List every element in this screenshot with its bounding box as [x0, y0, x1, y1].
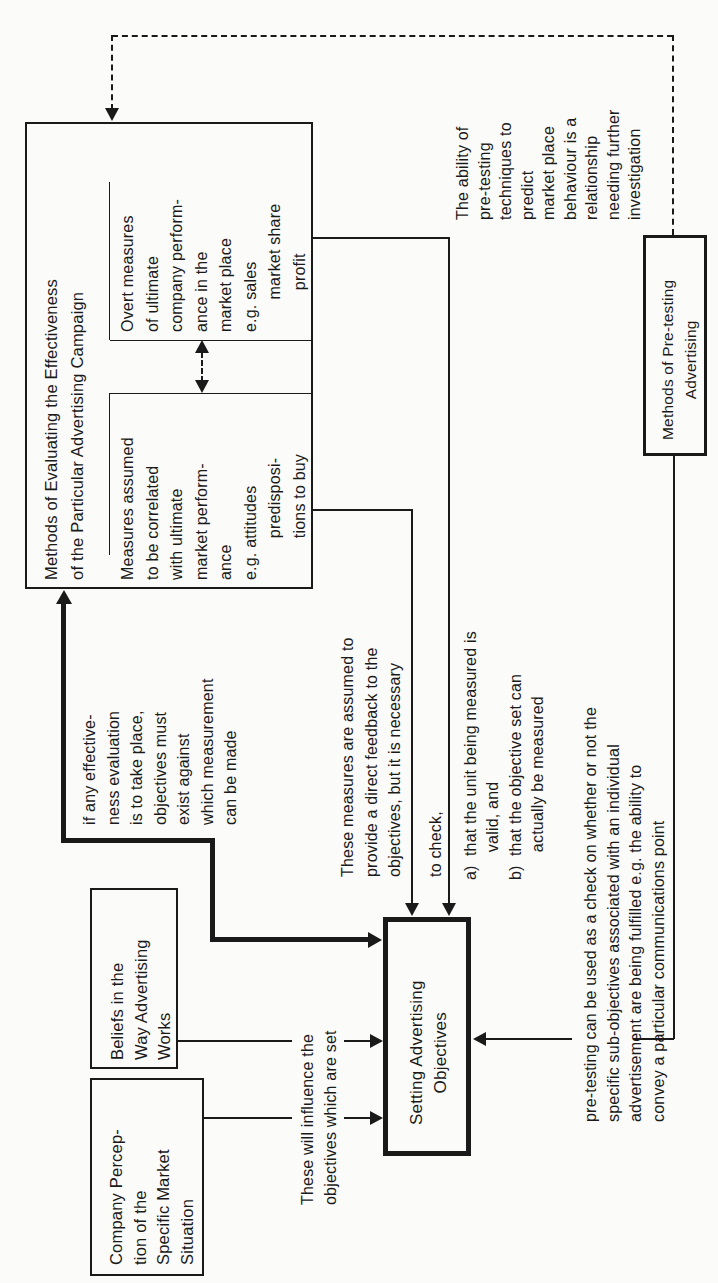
pretesting-connector-vertical: [673, 456, 675, 1039]
company-perception-connector-tail: [344, 1117, 370, 1119]
arrow-right-icon: [370, 1111, 383, 1125]
check-a-annotation: a) that the unit being measured is valid…: [460, 631, 504, 880]
assumed-measures-feedback-vertical: [411, 509, 413, 904]
arrow-down-icon: [195, 380, 209, 393]
pretesting-dashed-top: [112, 35, 673, 37]
beliefs-connector: [178, 1040, 292, 1042]
company-perception-label: Company Percep- tion of the Specific Mar…: [105, 1129, 199, 1265]
arrow-down-icon: [105, 108, 119, 121]
thick-link-step: [61, 838, 215, 843]
setting-objectives-label: Setting Advertising Objectives: [405, 980, 453, 1125]
correlation-dashed-link: [201, 352, 203, 382]
assumed-measures-text: Measures assumed to be correlated with u…: [116, 437, 312, 580]
pretesting-ability-annotation: The ability of pre-testing techniques to…: [452, 109, 646, 220]
influence-annotation: These will influence the objectives whic…: [296, 1030, 342, 1205]
beliefs-label: Beliefs in the Way Advertising Works: [106, 939, 177, 1060]
overt-measures-divider: [109, 182, 110, 340]
pretesting-dashed-down: [111, 35, 113, 110]
beliefs-connector-tail: [344, 1040, 370, 1042]
assumed-measures-divider: [109, 393, 110, 555]
pretesting-connector-to-objectives: [486, 1038, 572, 1040]
thick-link-vertical-lower: [210, 838, 215, 942]
arrow-up-icon: [56, 590, 72, 604]
arrow-right-icon: [368, 932, 382, 948]
overt-measures-text: Overt measures of ultimate company perfo…: [116, 199, 312, 332]
check-b-annotation: b) that the objective set can actually b…: [505, 674, 549, 880]
evaluation-methods-title: Methods of Evaluating the Effectiveness …: [38, 279, 90, 580]
overt-measures-feedback-vertical: [448, 237, 450, 904]
overt-measures-feedback-horizontal: [313, 237, 448, 239]
company-perception-connector: [204, 1117, 292, 1119]
pretesting-check-annotation: pre-testing can be used as a check on wh…: [580, 707, 670, 1122]
pretesting-dashed-up: [672, 35, 674, 235]
overt-measures-bottom-border: [110, 340, 313, 341]
assumed-measures-feedback-horizontal: [313, 509, 411, 511]
thick-link-vertical-upper: [61, 604, 66, 843]
assumed-measures-top-border: [110, 393, 313, 394]
arrow-left-icon: [473, 1032, 486, 1046]
feedback-intro-annotation: These measures are assumed to provide a …: [336, 637, 407, 877]
arrow-up-icon: [195, 340, 209, 353]
effectiveness-condition-annotation: if any effective- ness evaluation is to …: [78, 678, 243, 825]
arrow-right-icon: [370, 1034, 383, 1048]
thick-link-horizontal: [210, 937, 370, 942]
arrow-down-icon: [405, 903, 419, 916]
to-check-annotation: to check,: [425, 811, 447, 877]
arrow-down-icon: [442, 903, 456, 916]
pretesting-methods-label: Methods of Pre-testing Advertising: [656, 280, 702, 440]
